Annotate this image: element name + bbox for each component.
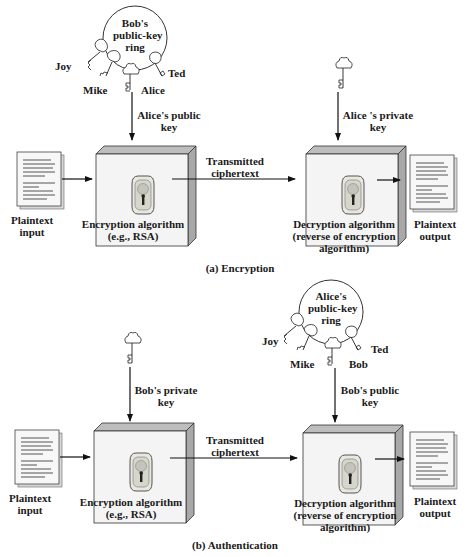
label-line: Plaintext <box>410 218 460 230</box>
panel-caption: (a) Encryption <box>190 262 290 274</box>
label-line: Decryption algorithm <box>286 218 402 230</box>
label-line: Bob's private <box>133 384 199 396</box>
key-owner-label: Alice <box>141 84 165 96</box>
label-line: (reverse of encryption <box>287 509 403 521</box>
transmitted-ciphertext-label: Transmitted ciphertext <box>200 434 270 458</box>
label-line: output <box>410 230 460 242</box>
label-line: key <box>133 396 199 408</box>
label-line: Alice 's private <box>340 109 416 121</box>
label-line: Plaintext <box>6 214 58 226</box>
private-key-icon <box>125 332 141 363</box>
plaintext-output-document-icon <box>410 155 457 212</box>
key-icon <box>284 313 304 344</box>
label-line: Plaintext <box>410 495 460 507</box>
key-ring-title-line: public-key <box>308 302 354 314</box>
label-line: Transmitted <box>200 434 270 446</box>
key-owner-label: Ted <box>168 67 185 79</box>
plaintext-output-label: Plaintext output <box>410 495 460 519</box>
panel-caption: (b) Authentication <box>175 539 295 551</box>
label-line: input <box>6 226 58 238</box>
label-line: algorithm) <box>287 521 403 533</box>
private-key-icon <box>336 57 352 88</box>
label-line: key <box>340 121 416 133</box>
decryption-algorithm-label: Decryption algorithm (reverse of encrypt… <box>287 497 403 533</box>
key-ring-title-line: ring <box>113 41 157 53</box>
encryption-algorithm-label: Encryption algorithm (e.g., RSA) <box>78 218 188 242</box>
key-ring-title-line: ring <box>308 314 354 326</box>
label-line: Decryption algorithm <box>287 497 403 509</box>
enc-key-label: Bob's private key <box>133 384 199 408</box>
plaintext-output-label: Plaintext output <box>410 218 460 242</box>
diagram-canvas <box>0 0 474 557</box>
key-owner-label: Joy <box>262 335 279 347</box>
key-owner-label: Mike <box>290 358 314 370</box>
label-line: (e.g., RSA) <box>76 508 186 520</box>
key-owner-label: Mike <box>83 84 107 96</box>
key-ring-title: Alice's public-key ring <box>308 290 354 326</box>
label-line: key <box>134 121 204 133</box>
plaintext-input-label: Plaintext input <box>6 214 58 238</box>
decryption-algorithm-label: Decryption algorithm (reverse of encrypt… <box>286 218 402 254</box>
encryption-algorithm-label: Encryption algorithm (e.g., RSA) <box>76 496 186 520</box>
enc-key-label: Alice's public key <box>134 109 204 133</box>
key-owner-label: Joy <box>55 60 72 72</box>
key-ring-title: Bob's public-key ring <box>113 17 157 53</box>
transmitted-ciphertext-label: Transmitted ciphertext <box>200 155 270 179</box>
label-line: input <box>4 504 56 516</box>
key-icon <box>88 39 108 70</box>
key-icon <box>325 337 341 365</box>
label-line: Alice's public <box>134 109 204 121</box>
key-ring-title-line: Bob's <box>113 17 157 29</box>
label-line: ciphertext <box>200 167 270 179</box>
plaintext-input-document-icon <box>15 430 62 487</box>
key-owner-label: Bob <box>349 358 368 370</box>
plaintext-input-document-icon <box>17 152 64 209</box>
key-ring-title-line: Alice's <box>308 290 354 302</box>
key-owner-label: Ted <box>371 343 388 355</box>
label-line: ciphertext <box>200 446 270 458</box>
label-line: Bob's public <box>337 384 403 396</box>
label-line: Encryption algorithm <box>78 218 188 230</box>
label-line: (e.g., RSA) <box>78 230 188 242</box>
dec-key-label: Alice 's private key <box>340 109 416 133</box>
label-line: algorithm) <box>286 242 402 254</box>
plaintext-input-label: Plaintext input <box>4 492 56 516</box>
label-line: (reverse of encryption <box>286 230 402 242</box>
label-line: output <box>410 507 460 519</box>
dec-key-label: Bob's public key <box>337 384 403 408</box>
key-ring-title-line: public-key <box>113 29 157 41</box>
label-line: Transmitted <box>200 155 270 167</box>
label-line: Encryption algorithm <box>76 496 186 508</box>
key-icon <box>123 63 139 91</box>
label-line: key <box>337 396 403 408</box>
plaintext-output-document-icon <box>410 432 457 489</box>
label-line: Plaintext <box>4 492 56 504</box>
